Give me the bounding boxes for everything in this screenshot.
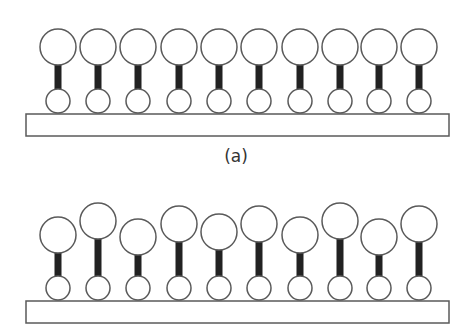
molecule-head-group — [241, 206, 277, 242]
molecule-chain — [55, 252, 62, 277]
molecule — [361, 29, 397, 113]
molecule — [161, 206, 197, 300]
substrate — [26, 301, 449, 323]
molecule-chain — [176, 241, 183, 277]
molecule-head-group — [201, 214, 237, 250]
molecule — [201, 29, 237, 113]
molecule-chain — [256, 241, 263, 277]
molecule — [361, 219, 397, 300]
molecule — [40, 217, 76, 300]
molecule-chain — [376, 254, 383, 277]
molecule-head-group — [120, 219, 156, 255]
molecule-head-group — [80, 29, 116, 65]
molecule — [80, 29, 116, 113]
molecule — [40, 29, 76, 113]
molecule-head-group — [40, 217, 76, 253]
molecule-head-group — [322, 29, 358, 65]
molecule-anchor-group — [288, 276, 312, 300]
molecule-chain — [135, 254, 142, 277]
molecule-anchor-group — [46, 89, 70, 113]
molecule-chain — [416, 241, 423, 277]
molecule-chain — [297, 64, 304, 90]
molecule-chain — [337, 238, 344, 277]
molecule-chain — [216, 249, 223, 277]
molecule-anchor-group — [86, 276, 110, 300]
molecule-anchor-group — [328, 276, 352, 300]
molecule-head-group — [40, 29, 76, 65]
molecule-head-group — [161, 206, 197, 242]
molecule — [282, 29, 318, 113]
molecule-head-group — [361, 219, 397, 255]
molecule — [161, 29, 197, 113]
panel-a-uniform-monolayer — [26, 29, 449, 136]
molecule-anchor-group — [247, 89, 271, 113]
molecule-head-group — [322, 203, 358, 239]
molecule-anchor-group — [167, 89, 191, 113]
molecule-anchor-group — [167, 276, 191, 300]
molecule-anchor-group — [207, 89, 231, 113]
molecule-anchor-group — [288, 89, 312, 113]
molecule-head-group — [361, 29, 397, 65]
molecule-anchor-group — [328, 89, 352, 113]
molecule — [80, 203, 116, 300]
molecule-head-group — [282, 217, 318, 253]
molecule-chain — [376, 64, 383, 90]
molecule-anchor-group — [367, 276, 391, 300]
molecule — [282, 217, 318, 300]
molecule-anchor-group — [367, 89, 391, 113]
molecule-head-group — [401, 29, 437, 65]
self-assembled-monolayer-diagram: (a) — [0, 0, 467, 326]
panel-b-staggered-monolayer — [26, 203, 449, 323]
molecule-chain — [176, 64, 183, 90]
molecule — [322, 29, 358, 113]
molecule — [120, 219, 156, 300]
molecule — [401, 29, 437, 113]
molecule-anchor-group — [407, 89, 431, 113]
molecule-head-group — [241, 29, 277, 65]
molecule-chain — [297, 252, 304, 277]
panel-a-label: (a) — [224, 146, 248, 166]
molecule-anchor-group — [126, 89, 150, 113]
molecule-chain — [95, 238, 102, 277]
molecule-head-group — [80, 203, 116, 239]
molecule — [120, 29, 156, 113]
molecule-anchor-group — [86, 89, 110, 113]
substrate — [26, 114, 449, 136]
molecule-head-group — [201, 29, 237, 65]
molecule-anchor-group — [407, 276, 431, 300]
molecule-chain — [337, 64, 344, 90]
molecule-anchor-group — [126, 276, 150, 300]
molecule — [241, 29, 277, 113]
molecule-head-group — [120, 29, 156, 65]
molecule-anchor-group — [207, 276, 231, 300]
molecule-anchor-group — [46, 276, 70, 300]
molecule — [401, 206, 437, 300]
molecule-chain — [216, 64, 223, 90]
molecule — [201, 214, 237, 300]
molecule-anchor-group — [247, 276, 271, 300]
molecule-chain — [135, 64, 142, 90]
molecule-chain — [256, 64, 263, 90]
molecule-chain — [416, 64, 423, 90]
molecule — [322, 203, 358, 300]
molecule — [241, 206, 277, 300]
molecule-head-group — [282, 29, 318, 65]
molecule-chain — [55, 64, 62, 90]
molecule-chain — [95, 64, 102, 90]
molecule-head-group — [161, 29, 197, 65]
molecule-head-group — [401, 206, 437, 242]
